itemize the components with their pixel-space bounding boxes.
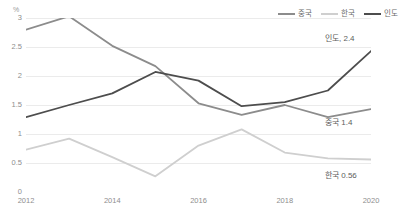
series-line <box>26 129 371 176</box>
plot-area: 32.521.510.5020122014201620182020인도, 2.4… <box>26 18 371 192</box>
gridlines <box>26 18 371 192</box>
legend-line-swatch <box>364 13 381 15</box>
x-axis-tick-label: 2012 <box>18 197 35 205</box>
y-axis-unit-label: % <box>13 6 19 13</box>
y-axis-tick-label: 0 <box>18 188 22 196</box>
series-lines <box>26 18 371 176</box>
legend-line-swatch <box>278 13 295 15</box>
line-chart: 중국한국인도 % 32.521.510.50201220142016201820… <box>0 0 406 216</box>
x-axis-tick-label: 2014 <box>104 197 121 205</box>
y-axis-tick-label: 3 <box>18 14 22 22</box>
legend-label: 인도 <box>384 10 398 18</box>
legend-entry[interactable]: 한국 <box>321 10 355 18</box>
y-axis-tick-label: 1.5 <box>12 101 22 109</box>
legend-entry[interactable]: 인도 <box>364 10 398 18</box>
legend-label: 한국 <box>341 10 355 18</box>
series-end-label: 한국 0.56 <box>325 172 357 180</box>
series-end-label: 인도, 2.4 <box>325 35 355 43</box>
x-axis-tick-label: 2016 <box>190 197 207 205</box>
y-axis-tick-label: 2 <box>18 72 22 80</box>
y-axis-tick-label: 0.5 <box>12 159 22 167</box>
legend-line-swatch <box>321 13 338 15</box>
x-axis-tick-label: 2020 <box>363 197 380 205</box>
y-axis-tick-label: 2.5 <box>12 43 22 51</box>
plot-svg <box>26 18 371 192</box>
series-line <box>26 51 371 117</box>
series-end-label: 중국 1.4 <box>325 119 352 127</box>
legend-entry[interactable]: 중국 <box>278 10 312 18</box>
x-axis-tick-label: 2018 <box>276 197 293 205</box>
y-axis-tick-label: 1 <box>18 130 22 138</box>
legend-label: 중국 <box>298 10 312 18</box>
